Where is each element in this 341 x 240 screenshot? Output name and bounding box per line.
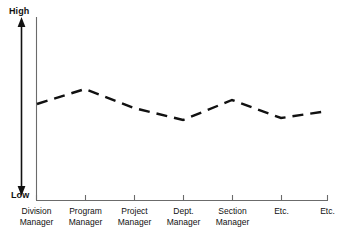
tick-label-line: Etc. (320, 206, 335, 217)
axis-label-high: High (9, 6, 29, 16)
axis-label-low: Low (11, 190, 29, 200)
tick-label-line: Manager (167, 217, 201, 228)
x-axis-tick-labels: DivisionManagerProgramManagerProjectMana… (0, 206, 341, 240)
x-axis-tick-label: ProjectManager (118, 206, 152, 228)
tick-label-line: Manager (118, 217, 152, 228)
tick-label-line: Dept. (167, 206, 201, 217)
tick-label-line: Project (118, 206, 152, 217)
x-axis-ticks (37, 195, 328, 201)
x-axis-tick-label: DivisionManager (20, 206, 54, 228)
x-axis-tick-label: Dept.Manager (167, 206, 201, 228)
chart-canvas (0, 0, 341, 240)
tick-label-line: Program (69, 206, 103, 217)
vertical-double-arrow-icon (18, 17, 26, 196)
tick-label-line: Division (20, 206, 54, 217)
x-axis-tick-label: Etc. (320, 206, 335, 217)
x-axis-tick-label: Etc. (274, 206, 289, 217)
tick-label-line: Manager (20, 217, 54, 228)
x-axis-tick-label: SectionManager (216, 206, 250, 228)
chart-figure: High Low DivisionManagerProgramManagerPr… (0, 0, 341, 240)
tick-label-line: Etc. (274, 206, 289, 217)
tick-label-line: Manager (69, 217, 103, 228)
x-axis-tick-label: ProgramManager (69, 206, 103, 228)
tick-label-line: Section (216, 206, 250, 217)
data-series-dashed-line (37, 89, 328, 120)
tick-label-line: Manager (216, 217, 250, 228)
